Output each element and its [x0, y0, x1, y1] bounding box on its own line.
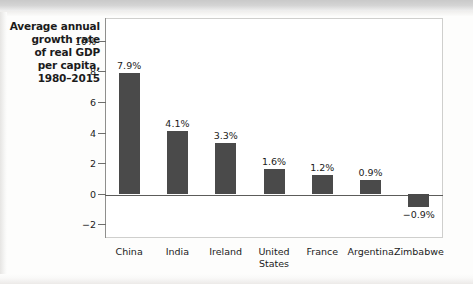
bar-value-label: 1.2% — [310, 162, 334, 173]
chart-title-line-3: of real GDP — [4, 46, 100, 59]
y-axis-tick-label: 6 — [90, 97, 96, 108]
scan-artifact-bottom-edge — [0, 274, 473, 284]
y-axis-tick-label: 2 — [90, 158, 96, 169]
chart-title-line-5: 1980–2015 — [4, 72, 100, 85]
chart-title: Average annual growth rate of real GDP p… — [4, 20, 100, 85]
bar — [312, 175, 333, 193]
bar-value-label: 0.9% — [358, 167, 382, 178]
bar — [360, 180, 381, 194]
chart-figure: ııı ıı Average annual growth rate of rea… — [0, 0, 473, 284]
bar-value-label: 1.6% — [262, 156, 286, 167]
x-axis-category-label: Zimbabwe — [394, 246, 444, 258]
y-axis-tick-label: −2 — [82, 219, 96, 230]
scan-artifact-top-fade — [0, 11, 473, 16]
x-axis-category-label: India — [166, 246, 189, 258]
y-axis-tick-label: 10% — [75, 35, 96, 46]
bar — [119, 73, 140, 194]
x-axis-category-label: France — [306, 246, 338, 258]
chart-title-line-4: per capita, — [4, 59, 100, 72]
plot-area: 7.9%4.1%3.3%1.6%1.2%0.9%−0.9% — [105, 18, 443, 238]
y-axis-tick-label: 0 — [90, 188, 96, 199]
chart-title-line-1: Average annual — [4, 20, 100, 33]
bar — [408, 194, 429, 208]
x-axis-category-label: Argentina — [347, 246, 393, 258]
bar-value-label: 7.9% — [117, 60, 141, 71]
bar — [215, 143, 236, 193]
x-axis-category-label: China — [116, 246, 143, 258]
y-axis-tick-label: 4 — [90, 127, 96, 138]
bar — [167, 131, 188, 194]
y-axis-tick-label: 8 — [90, 66, 96, 77]
x-axis-category-label: United States — [258, 246, 289, 269]
bar-value-label: 3.3% — [214, 130, 238, 141]
bar — [264, 169, 285, 193]
x-axis-category-label: Ireland — [209, 246, 242, 258]
bar-value-label: 4.1% — [165, 118, 189, 129]
bar-value-label: −0.9% — [403, 209, 435, 220]
